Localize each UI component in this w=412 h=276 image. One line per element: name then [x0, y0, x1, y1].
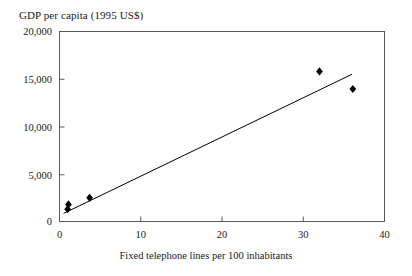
y-tick-label-20000: 20,000	[23, 26, 52, 37]
data-point-group	[64, 67, 356, 213]
x-tick-label-0: 0	[57, 229, 62, 240]
y-tick-label-5000: 5,000	[28, 170, 52, 181]
x-axis-title: Fixed telephone lines per 100 inhabitant…	[0, 250, 412, 261]
y-tick-label-15000: 15,000	[23, 74, 52, 85]
plot-frame	[60, 32, 385, 222]
y-tick-label-10000: 10,000	[23, 122, 52, 133]
trend-line	[64, 74, 352, 213]
x-tick-label-20: 20	[217, 229, 228, 240]
chart-container: GDP per capita (1995 US$) 20,000 15,000 …	[0, 0, 412, 276]
x-tick-label-10: 10	[136, 229, 147, 240]
x-tick-label-40: 40	[379, 229, 390, 240]
data-point	[349, 85, 356, 93]
x-tick-label-30: 30	[298, 229, 309, 240]
y-tick-label-0: 0	[47, 216, 52, 227]
y-axis-ticks	[60, 32, 65, 222]
data-point	[86, 194, 93, 202]
scatter-plot: 20,000 15,000 10,000 5,000 0 0 10 20 30 …	[0, 0, 412, 276]
x-axis-ticks	[60, 217, 385, 222]
data-point	[316, 67, 323, 75]
